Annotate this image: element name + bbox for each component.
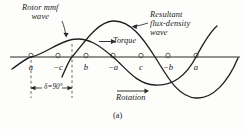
rotation-label: Rotation <box>116 94 146 103</box>
figure-caption: (a) <box>113 112 122 121</box>
axis-tick-label: c <box>139 62 143 72</box>
figure-container: Rotor mmf wave Resultant flux-density wa… <box>0 0 246 129</box>
resultant-label-line3: wave <box>150 29 190 38</box>
axis-tick-label: a <box>194 62 198 72</box>
resultant-flux-density-wave-label: Resultant flux-density wave <box>150 11 190 37</box>
axis-tick-label: −c <box>53 62 63 72</box>
rotor-mmf-wave-label: Rotor mmf wave <box>22 4 59 22</box>
axis-tick-label: a <box>29 62 33 72</box>
delta-angle-label: δ=90° <box>44 84 63 92</box>
rotor-label-leader-arrowhead <box>63 33 68 38</box>
axis-tick-label: −b <box>163 62 173 72</box>
torque-label: Torque <box>113 37 136 46</box>
axis-tick-label: b <box>84 62 88 72</box>
axis-tick-label: −a <box>108 62 118 72</box>
rotor-mmf-wave-label-line2: wave <box>22 13 59 22</box>
